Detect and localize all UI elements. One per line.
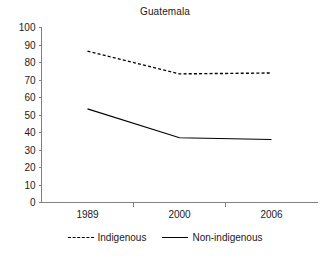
data-series-group [88,51,272,139]
legend-label-indigenous: Indigenous [98,232,147,243]
y-axis-ticks: 0102030405060708090100 [19,22,42,208]
y-tick-label: 100 [19,22,36,33]
y-tick-label: 40 [24,127,36,138]
y-tick-label: 30 [24,145,36,156]
y-tick-label: 70 [24,75,36,86]
dashed-line-icon [68,234,94,241]
legend-label-non-indigenous: Non-indigenous [192,232,262,243]
y-tick-label: 10 [24,180,36,191]
series-line-indigenous [88,51,272,74]
x-axis-ticks: 198920002006 [76,203,283,220]
y-tick-label: 50 [24,110,36,121]
chart-container: Guatemala 0102030405060708090100 1989200… [0,0,330,258]
y-tick-label: 60 [24,92,36,103]
legend-entry-non-indigenous: Non-indigenous [162,232,262,243]
y-tick-label: 0 [30,197,36,208]
x-tick-label: 2006 [260,209,283,220]
solid-line-icon [162,234,188,241]
y-tick-label: 20 [24,162,36,173]
y-tick-label: 80 [24,57,36,68]
chart-legend: Indigenous Non-indigenous [0,232,330,243]
series-line-non-indigenous [88,109,272,140]
chart-plot-area: 0102030405060708090100 198920002006 [0,0,330,258]
x-tick-label: 2000 [168,209,191,220]
x-tick-label: 1989 [76,209,99,220]
y-tick-label: 90 [24,40,36,51]
legend-entry-indigenous: Indigenous [68,232,147,243]
